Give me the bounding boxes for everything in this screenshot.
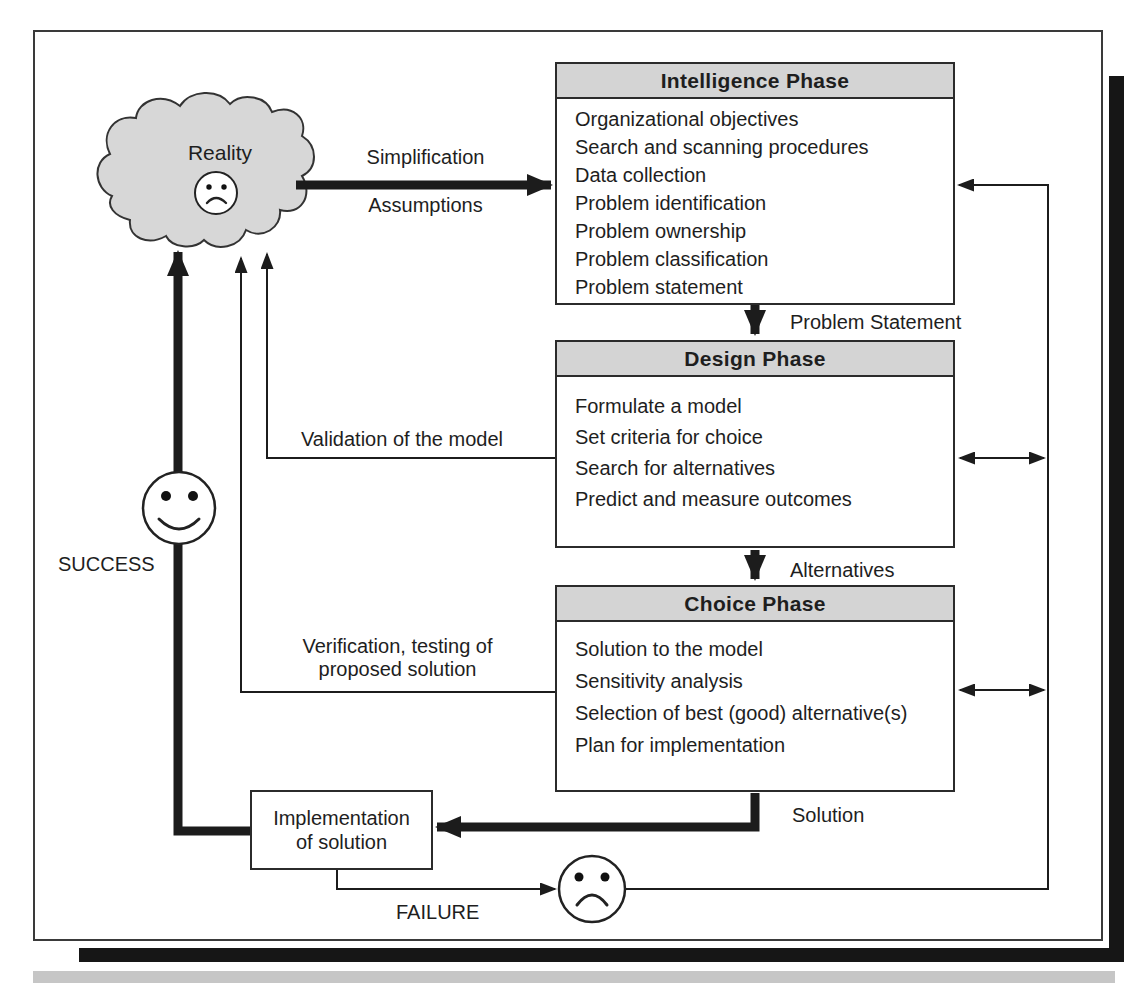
phase-item: Selection of best (good) alternative(s)	[575, 697, 943, 729]
success-smiley-face-icon	[143, 472, 215, 544]
design-phase-box: Design Phase Formulate a model Set crite…	[555, 340, 955, 548]
phase-item: Organizational objectives	[575, 105, 943, 133]
choice-phase-box: Choice Phase Solution to the model Sensi…	[555, 585, 955, 792]
simplification-label: Simplification	[338, 146, 513, 169]
phase-item: Plan for implementation	[575, 729, 943, 761]
reality-cloud	[97, 93, 314, 247]
success-label: SUCCESS	[58, 553, 155, 576]
phase-item: Set criteria for choice	[575, 422, 943, 453]
solution-arrow	[437, 793, 755, 827]
intelligence-phase-box: Intelligence Phase Organizational object…	[555, 62, 955, 305]
implementation-box-line1: Implementation	[273, 806, 410, 830]
phase-item: Search for alternatives	[575, 453, 943, 484]
phase-item: Search and scanning procedures	[575, 133, 943, 161]
reality-label: Reality	[170, 141, 270, 165]
phase-item: Solution to the model	[575, 633, 943, 665]
textbook-page: Intelligence Phase Organizational object…	[0, 0, 1145, 983]
phase-item: Formulate a model	[575, 391, 943, 422]
failure-arrow	[337, 870, 555, 889]
design-phase-items: Formulate a model Set criteria for choic…	[557, 377, 953, 515]
implementation-box: Implementation of solution	[250, 790, 433, 870]
intelligence-phase-title: Intelligence Phase	[557, 64, 953, 99]
phase-item: Predict and measure outcomes	[575, 484, 943, 515]
assumptions-label: Assumptions	[338, 194, 513, 217]
choice-phase-title: Choice Phase	[557, 587, 953, 622]
implementation-box-line2: of solution	[296, 830, 387, 854]
phase-item: Data collection	[575, 161, 943, 189]
phase-item: Problem identification	[575, 189, 943, 217]
solution-label: Solution	[792, 804, 864, 827]
phase-item: Problem statement	[575, 273, 943, 301]
verification-label: Verification, testing of proposed soluti…	[280, 635, 515, 681]
phase-item: Sensitivity analysis	[575, 665, 943, 697]
alternatives-label: Alternatives	[790, 559, 895, 582]
validation-label: Validation of the model	[272, 428, 532, 451]
cloud-sad-face-icon	[195, 172, 237, 214]
phase-item: Problem ownership	[575, 217, 943, 245]
failure-label: FAILURE	[396, 901, 479, 924]
intelligence-phase-items: Organizational objectives Search and sca…	[557, 99, 953, 301]
phase-item: Problem classification	[575, 245, 943, 273]
verification-label-line2: proposed solution	[280, 658, 515, 681]
problem-statement-label: Problem Statement	[790, 311, 961, 334]
failure-sad-face-icon	[559, 856, 625, 922]
verification-arrow	[241, 258, 555, 692]
design-phase-title: Design Phase	[557, 342, 953, 377]
choice-phase-items: Solution to the model Sensitivity analys…	[557, 622, 953, 761]
verification-label-line1: Verification, testing of	[280, 635, 515, 658]
